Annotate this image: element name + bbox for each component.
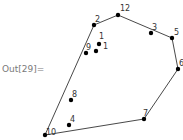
point-label-p10: 10 (46, 128, 56, 137)
point-label-p2: 2 (95, 15, 100, 24)
hull-edge-5-6 (172, 38, 178, 69)
point-label-p12: 12 (120, 4, 130, 13)
convex-hull-plot: 12235671048911 (0, 0, 183, 140)
point-label-p1b: 1 (103, 42, 108, 51)
point-label-p5: 5 (174, 28, 179, 37)
point-labels: 12235671048911 (46, 4, 183, 137)
point-p12 (116, 13, 120, 17)
hull-edge-12-5 (118, 15, 172, 38)
point-label-p4: 4 (70, 115, 75, 124)
point-label-p6: 6 (179, 59, 183, 68)
points (43, 13, 180, 137)
hull-edge-6-7 (144, 69, 178, 119)
point-p1b (94, 49, 98, 53)
point-label-p3: 3 (152, 23, 157, 32)
point-p1a (97, 42, 101, 46)
point-label-p7: 7 (143, 109, 148, 118)
point-label-p1a: 1 (99, 32, 104, 41)
hull-edge-7-10 (45, 119, 144, 135)
hull-edges (45, 15, 178, 135)
point-label-p9: 9 (86, 43, 91, 52)
point-label-p8: 8 (72, 90, 77, 99)
